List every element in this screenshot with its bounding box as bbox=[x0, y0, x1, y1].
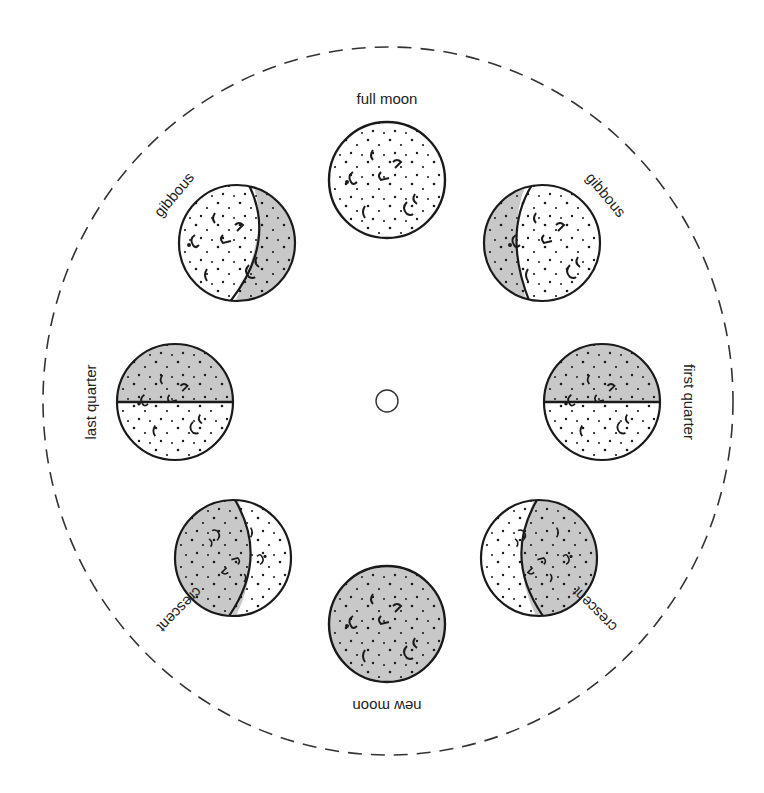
moon-phase-wheel: full moon gibbous first quarter bbox=[0, 0, 764, 793]
label-crescent-right: crescent bbox=[567, 583, 620, 636]
moon-gibbous-left bbox=[179, 173, 295, 313]
label-crescent-left: crescent bbox=[153, 584, 206, 637]
center-hole bbox=[376, 390, 398, 412]
label-last-quarter: last quarter bbox=[82, 364, 99, 439]
label-first-quarter: first quarter bbox=[681, 364, 698, 440]
moon-full bbox=[329, 122, 445, 238]
moon-new bbox=[329, 566, 445, 682]
moon-last-quarter bbox=[115, 342, 235, 462]
label-new-moon: new moon bbox=[352, 698, 421, 715]
moon-first-quarter bbox=[542, 342, 662, 462]
label-full-moon: full moon bbox=[357, 90, 418, 107]
moon-gibbous-right bbox=[484, 173, 600, 313]
